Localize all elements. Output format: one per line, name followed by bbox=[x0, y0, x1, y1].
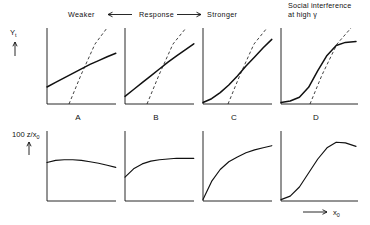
bottom-y-axis-subscript: 0 bbox=[36, 134, 39, 140]
right-arrow-icon bbox=[177, 12, 201, 17]
bottom-y-axis-label: 100 z/x0 bbox=[12, 130, 39, 140]
up-arrow-icon bbox=[27, 142, 31, 155]
response-curve-solid bbox=[125, 44, 194, 97]
bottom-x-axis-label: x0 bbox=[333, 208, 340, 218]
bottom-x-axis-subscript: 0 bbox=[337, 212, 340, 218]
up-arrow-icon bbox=[13, 42, 17, 56]
response-curve-solid bbox=[47, 53, 116, 87]
top-y-axis-label: Yt bbox=[10, 28, 17, 38]
panel-label-b: B bbox=[153, 113, 159, 122]
response-curve-solid bbox=[281, 42, 356, 103]
panel-axes bbox=[47, 131, 116, 201]
corner-note-line2: at high γ bbox=[288, 10, 317, 19]
ratio-curve bbox=[281, 142, 356, 199]
bottom-y-axis-label-group: 100 z/x0 bbox=[12, 130, 39, 155]
panel-axes bbox=[125, 28, 194, 104]
panel-axes bbox=[47, 28, 116, 104]
header-response-label: Response bbox=[139, 10, 174, 19]
panel-axes bbox=[281, 131, 358, 201]
reference-line-dashed bbox=[147, 28, 186, 104]
left-arrow-icon bbox=[108, 12, 132, 17]
bottom-x-axis-label-group: x0 bbox=[303, 208, 340, 218]
panel-top-d: D bbox=[281, 28, 358, 122]
panel-top-a: A bbox=[47, 28, 116, 122]
panel-bottom-c bbox=[203, 131, 272, 201]
response-curve-solid bbox=[203, 39, 272, 102]
panel-label-c: C bbox=[231, 113, 237, 122]
panel-label-a: A bbox=[75, 113, 81, 122]
panel-label-d: D bbox=[313, 113, 319, 122]
reference-line-dashed bbox=[228, 28, 267, 104]
panel-bottom-b bbox=[125, 131, 194, 201]
top-y-axis-label-group: Yt bbox=[10, 28, 17, 56]
header-response-scale: Weaker Response Stronger bbox=[68, 10, 238, 19]
panel-axes bbox=[203, 28, 272, 104]
ratio-curve bbox=[203, 146, 272, 200]
right-arrow-icon bbox=[303, 210, 327, 215]
gamma-symbol: γ bbox=[313, 10, 317, 19]
corner-note-line1: Social interference bbox=[288, 1, 351, 10]
header-stronger-label: Stronger bbox=[207, 10, 238, 19]
panel-top-b: B bbox=[125, 28, 194, 122]
reference-line-dashed bbox=[310, 28, 351, 104]
corner-note: Social interference at high γ bbox=[288, 1, 351, 19]
panel-bottom-a bbox=[47, 131, 116, 201]
panel-bottom-d bbox=[281, 131, 358, 201]
ratio-curve bbox=[125, 158, 194, 177]
top-y-axis-subscript: t bbox=[15, 32, 17, 38]
panel-axes bbox=[125, 131, 194, 201]
header-weaker-label: Weaker bbox=[68, 10, 95, 19]
ratio-curve bbox=[47, 160, 116, 168]
panel-top-c: C bbox=[203, 28, 272, 122]
panel-axes bbox=[203, 131, 272, 201]
figure-canvas: Weaker Response Stronger Social interfer… bbox=[0, 0, 370, 225]
corner-note-prefix: at high bbox=[288, 10, 313, 19]
panel-axes bbox=[281, 28, 358, 104]
